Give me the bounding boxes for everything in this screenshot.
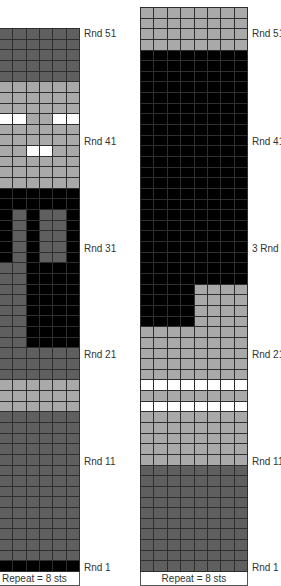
stitch-cell bbox=[208, 423, 220, 433]
stitch-cell bbox=[13, 380, 25, 390]
stitch-cell bbox=[67, 93, 79, 103]
stitch-cell bbox=[141, 338, 153, 348]
stitch-cell bbox=[0, 135, 12, 145]
stitch-cell bbox=[67, 434, 79, 444]
stitch-cell bbox=[141, 487, 153, 497]
stitch-cell bbox=[141, 104, 153, 114]
stitch-cell bbox=[67, 561, 79, 571]
stitch-cell bbox=[195, 466, 207, 476]
stitch-cell bbox=[154, 29, 166, 39]
stitch-cell bbox=[0, 466, 12, 476]
stitch-cell bbox=[141, 125, 153, 135]
stitch-cell bbox=[221, 380, 233, 390]
stitch-cell bbox=[208, 444, 220, 454]
stitch-cell bbox=[53, 295, 65, 305]
stitch-cell bbox=[154, 561, 166, 571]
stitch-cell bbox=[40, 497, 52, 507]
stitch-cell bbox=[0, 476, 12, 486]
stitch-cell bbox=[208, 104, 220, 114]
stitch-cell bbox=[195, 168, 207, 178]
stitch-cell bbox=[13, 274, 25, 284]
stitch-cell bbox=[168, 487, 180, 497]
stitch-cell bbox=[0, 114, 12, 124]
stitch-cell bbox=[168, 412, 180, 422]
stitch-cell bbox=[181, 221, 193, 231]
stitch-cell bbox=[40, 146, 52, 156]
stitch-cell bbox=[13, 529, 25, 539]
stitch-cell bbox=[154, 114, 166, 124]
stitch-cell bbox=[27, 199, 39, 209]
stitch-cell bbox=[168, 306, 180, 316]
stitch-cell bbox=[195, 498, 207, 508]
stitch-cell bbox=[13, 359, 25, 369]
stitch-cell bbox=[208, 529, 220, 539]
stitch-cell bbox=[27, 210, 39, 220]
stitch-cell bbox=[221, 359, 233, 369]
stitch-cell bbox=[53, 348, 65, 358]
stitch-cell bbox=[168, 29, 180, 39]
stitch-cell bbox=[27, 402, 39, 412]
stitch-cell bbox=[221, 327, 233, 337]
stitch-cell bbox=[53, 82, 65, 92]
stitch-cell bbox=[0, 231, 12, 241]
right-chart-grid bbox=[140, 7, 248, 572]
stitch-cell bbox=[168, 242, 180, 252]
stitch-cell bbox=[168, 317, 180, 327]
stitch-cell bbox=[221, 295, 233, 305]
stitch-cell bbox=[195, 551, 207, 561]
stitch-cell bbox=[67, 29, 79, 39]
stitch-cell bbox=[40, 50, 52, 60]
stitch-cell bbox=[235, 317, 247, 327]
stitch-cell bbox=[181, 349, 193, 359]
row-label-rnd-1: Rnd 1 bbox=[84, 562, 111, 574]
stitch-cell bbox=[208, 540, 220, 550]
stitch-cell bbox=[221, 200, 233, 210]
stitch-cell bbox=[53, 391, 65, 401]
stitch-cell bbox=[235, 168, 247, 178]
stitch-cell bbox=[154, 146, 166, 156]
stitch-cell bbox=[0, 178, 12, 188]
stitch-cell bbox=[181, 93, 193, 103]
stitch-cell bbox=[0, 29, 12, 39]
stitch-cell bbox=[0, 338, 12, 348]
stitch-cell bbox=[53, 306, 65, 316]
stitch-cell bbox=[181, 498, 193, 508]
stitch-cell bbox=[40, 199, 52, 209]
stitch-cell bbox=[195, 561, 207, 571]
stitch-cell bbox=[168, 359, 180, 369]
stitch-cell bbox=[154, 263, 166, 273]
stitch-cell bbox=[235, 391, 247, 401]
stitch-cell bbox=[235, 402, 247, 412]
stitch-cell bbox=[27, 50, 39, 60]
stitch-cell bbox=[53, 338, 65, 348]
stitch-cell bbox=[208, 136, 220, 146]
stitch-cell bbox=[67, 540, 79, 550]
stitch-cell bbox=[235, 146, 247, 156]
stitch-cell bbox=[141, 29, 153, 39]
stitch-cell bbox=[13, 221, 25, 231]
stitch-cell bbox=[0, 370, 12, 380]
stitch-cell bbox=[13, 50, 25, 60]
stitch-cell bbox=[67, 231, 79, 241]
stitch-cell bbox=[154, 51, 166, 61]
stitch-cell bbox=[141, 136, 153, 146]
stitch-cell bbox=[208, 178, 220, 188]
stitch-cell bbox=[53, 561, 65, 571]
stitch-cell bbox=[195, 8, 207, 18]
stitch-cell bbox=[168, 168, 180, 178]
stitch-cell bbox=[13, 29, 25, 39]
stitch-cell bbox=[195, 72, 207, 82]
stitch-cell bbox=[13, 167, 25, 177]
stitch-cell bbox=[53, 157, 65, 167]
stitch-cell bbox=[181, 146, 193, 156]
stitch-cell bbox=[235, 455, 247, 465]
stitch-cell bbox=[181, 402, 193, 412]
stitch-cell bbox=[168, 221, 180, 231]
stitch-cell bbox=[235, 370, 247, 380]
stitch-cell bbox=[141, 498, 153, 508]
stitch-cell bbox=[181, 434, 193, 444]
stitch-cell bbox=[27, 189, 39, 199]
stitch-cell bbox=[168, 72, 180, 82]
stitch-cell bbox=[221, 391, 233, 401]
stitch-cell bbox=[67, 146, 79, 156]
